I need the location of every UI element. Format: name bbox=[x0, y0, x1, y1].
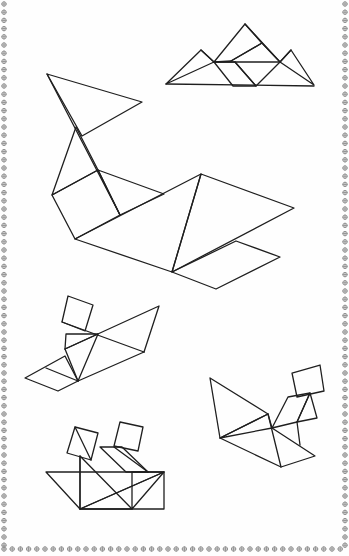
tangram-dog-boat bbox=[25, 296, 159, 391]
tangram-squirrel bbox=[210, 365, 324, 467]
tangram-mountains bbox=[166, 24, 314, 86]
worksheet bbox=[0, 0, 349, 556]
tangram-whale bbox=[47, 74, 294, 289]
tangram-ship bbox=[46, 422, 164, 509]
worksheet-canvas bbox=[0, 0, 349, 556]
